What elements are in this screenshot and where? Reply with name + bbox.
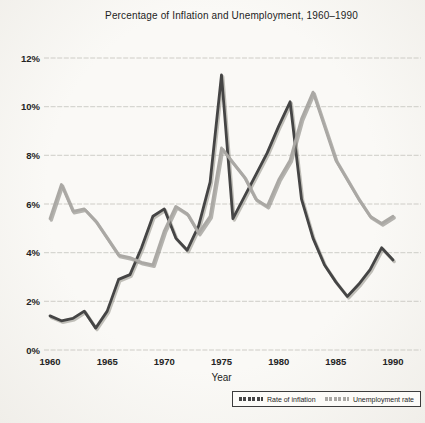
y-tick-label: 10%	[21, 101, 41, 112]
y-tick-label: 12%	[21, 53, 41, 64]
x-tick-label: 1985	[325, 356, 347, 367]
x-tick-label: 1970	[154, 356, 175, 367]
inflation-line-swatch	[239, 397, 263, 401]
legend-item-unemployment: Unemployment rate	[325, 396, 414, 403]
y-tick-label: 2%	[26, 296, 40, 307]
legend-label-inflation: Rate of inflation	[267, 396, 316, 403]
inflation-line	[50, 75, 393, 328]
chart-page: Percentage of Inflation and Unemployment…	[0, 0, 425, 423]
x-tick-label: 1975	[211, 356, 233, 367]
legend: Rate of inflation Unemployment rate	[232, 391, 421, 407]
x-tick-label: 1990	[382, 356, 403, 367]
unemployment-line-shadow	[51, 94, 394, 267]
x-axis-title: Year	[44, 372, 399, 383]
unemployment-line	[50, 92, 393, 265]
legend-item-inflation: Rate of inflation	[239, 396, 316, 403]
y-tick-label: 0%	[26, 345, 40, 356]
y-tick-label: 8%	[26, 150, 40, 161]
x-tick-label: 1960	[39, 356, 60, 367]
x-tick-label: 1980	[268, 356, 289, 367]
unemployment-line-swatch	[325, 397, 349, 401]
legend-label-unemployment: Unemployment rate	[353, 396, 414, 403]
plot-area: 0%2%4%6%8%10%12%196019651970197519801985…	[0, 0, 425, 423]
y-tick-label: 6%	[26, 199, 40, 210]
y-tick-label: 4%	[26, 247, 40, 258]
x-tick-label: 1965	[97, 356, 119, 367]
